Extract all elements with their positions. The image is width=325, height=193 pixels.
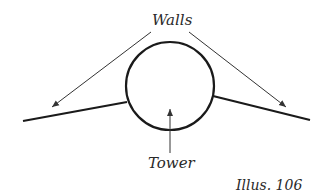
- illustration-caption: Illus. 106: [236, 177, 302, 193]
- right-wall-line: [213, 96, 310, 120]
- walls-left-arrow: [52, 32, 151, 107]
- walls-right-arrow: [189, 32, 286, 107]
- walls-label: Walls: [152, 11, 192, 29]
- tower-label: Tower: [148, 154, 195, 172]
- left-wall-line: [23, 102, 127, 121]
